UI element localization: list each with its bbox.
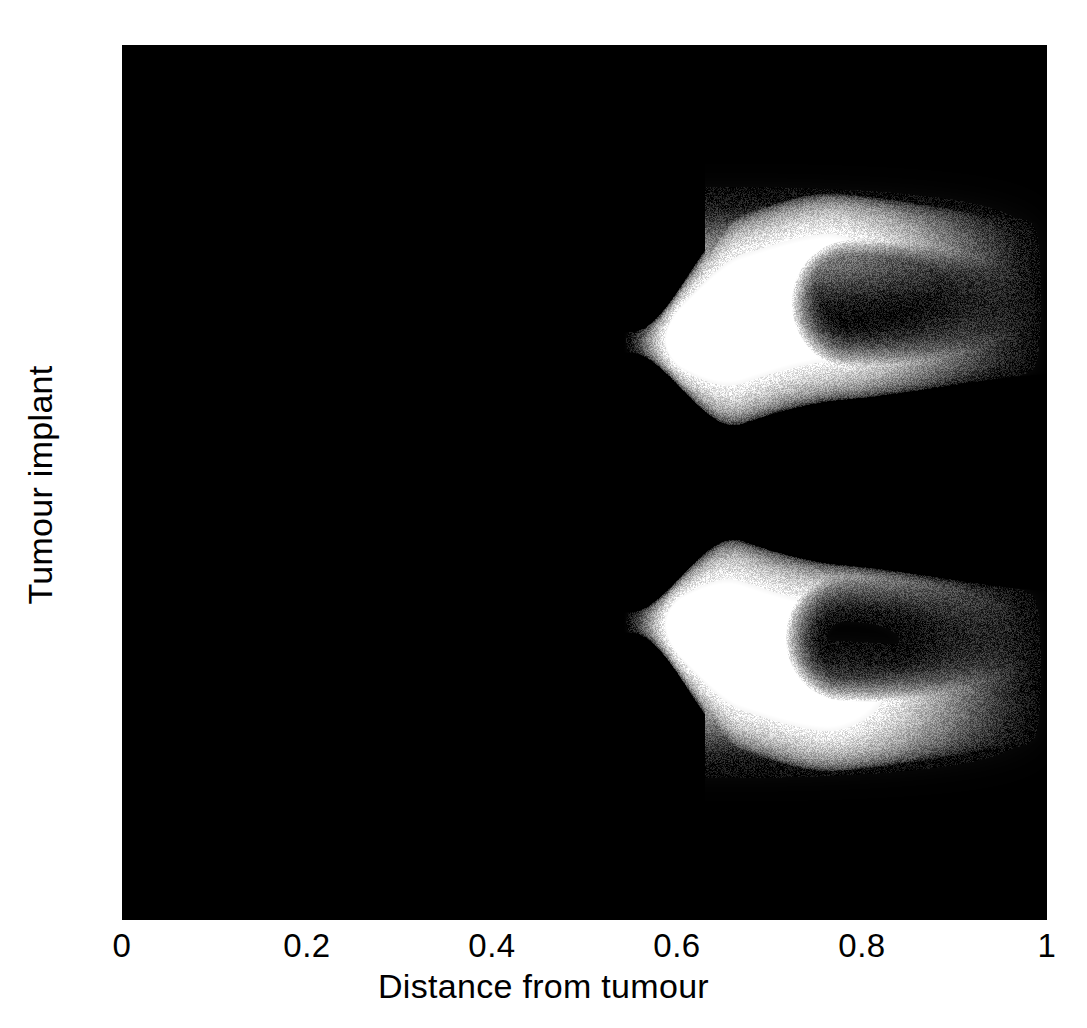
y-axis-title: Tumour implant (21, 245, 59, 725)
heatmap-image (122, 45, 1047, 920)
x-axis-title: Distance from tumour (0, 967, 1087, 1005)
plot-panel (122, 45, 1047, 920)
xtick-label-1: 1 (987, 928, 1087, 964)
xtick-label-0-4: 0.4 (432, 928, 552, 964)
heatmap-figure: 1 0.9 0.8 0.7 0.6 0.5 0.4 0.3 0.2 0.1 0 … (0, 0, 1087, 1028)
xtick-label-0-2: 0.2 (247, 928, 367, 964)
xtick-label-0-8: 0.8 (802, 928, 922, 964)
xtick-label-0-6: 0.6 (617, 928, 737, 964)
xtick-label-0: 0 (62, 928, 182, 964)
